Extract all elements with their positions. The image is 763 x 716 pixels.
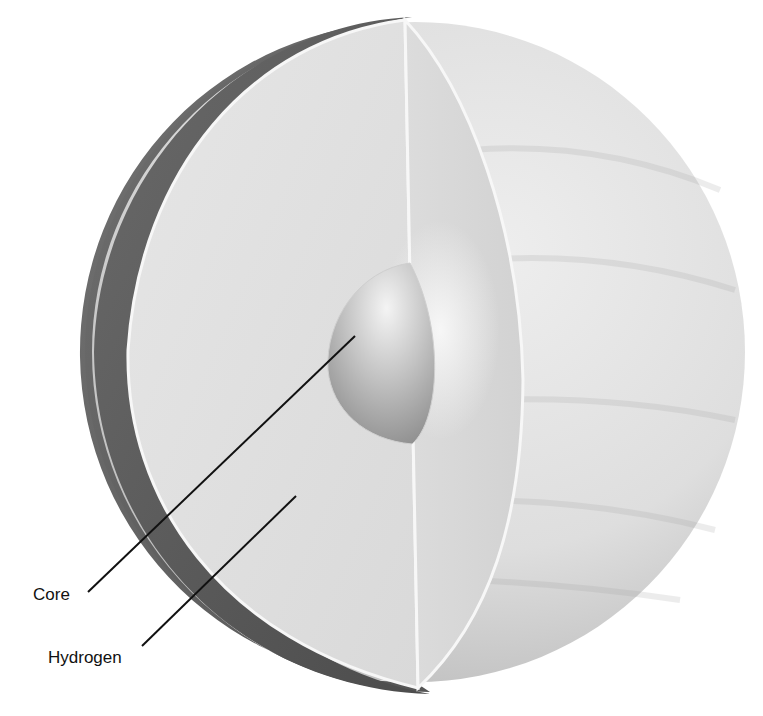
planet-cutaway-diagram (0, 0, 763, 716)
core-label: Core (33, 586, 70, 603)
hydrogen-label: Hydrogen (48, 649, 122, 666)
